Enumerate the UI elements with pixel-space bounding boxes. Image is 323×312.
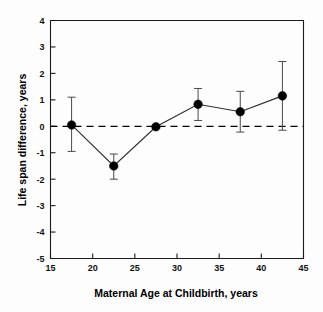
data-point — [67, 121, 76, 130]
y-tick-label: -5 — [36, 254, 44, 264]
x-tick-label: 35 — [214, 263, 224, 273]
plot-frame — [51, 21, 304, 259]
data-point-markers — [67, 92, 286, 171]
y-axis-tick-labels: -5-4-3-2-101234 — [36, 16, 44, 264]
data-point — [194, 100, 203, 109]
data-point — [109, 162, 118, 171]
y-tick-label: -3 — [36, 201, 44, 211]
y-tick-label: -1 — [36, 148, 44, 158]
y-tick-label: 0 — [39, 122, 44, 132]
x-tick-label: 40 — [256, 263, 266, 273]
y-tick-label: -2 — [36, 175, 44, 185]
y-tick-label: 1 — [39, 95, 44, 105]
y-tick-label: 3 — [39, 42, 44, 52]
y-axis-title: Life span difference, years — [16, 74, 28, 207]
y-tick-label: 2 — [39, 69, 44, 79]
y-tick-label: -4 — [36, 227, 44, 237]
x-tick-label: 30 — [172, 263, 182, 273]
data-point — [278, 92, 287, 101]
y-tick-label: 4 — [39, 16, 44, 26]
x-tick-label: 45 — [298, 263, 308, 273]
x-tick-label: 20 — [88, 263, 98, 273]
error-bars — [68, 61, 287, 179]
series-line — [72, 96, 283, 166]
x-tick-label: 25 — [130, 263, 140, 273]
data-point — [236, 107, 245, 116]
x-tick-label: 15 — [45, 263, 55, 273]
chart-figure: 15202530354045 -5-4-3-2-101234 Maternal … — [0, 0, 323, 312]
y-axis-ticks — [51, 21, 56, 259]
x-axis-tick-labels: 15202530354045 — [45, 263, 308, 273]
x-axis-ticks — [51, 254, 304, 259]
data-point — [152, 123, 161, 132]
x-axis-title: Maternal Age at Childbirth, years — [94, 287, 258, 299]
scatter-plot: 15202530354045 -5-4-3-2-101234 Maternal … — [0, 0, 323, 312]
